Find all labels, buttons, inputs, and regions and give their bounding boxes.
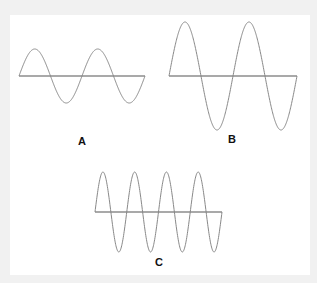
sine-waves-diagram [0,0,317,283]
sine-wave-c [95,172,222,252]
sine-wave-b [169,22,297,130]
wave-c-label: C [155,256,163,268]
wave-b-label: B [228,133,236,145]
wave-a-label: A [78,135,86,147]
sine-wave-a [19,49,145,103]
